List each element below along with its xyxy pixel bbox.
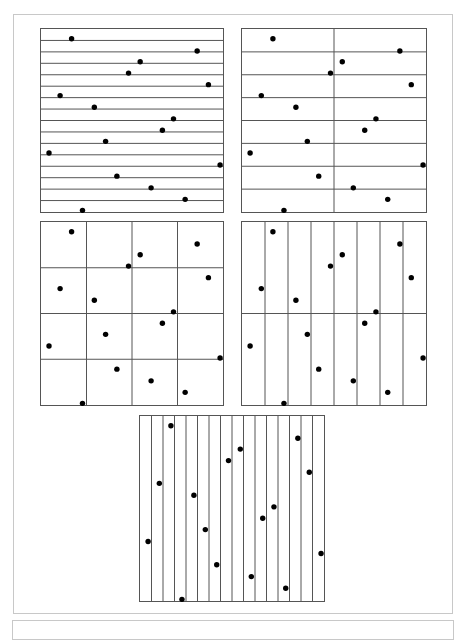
- data-point: [397, 48, 402, 53]
- panel-16x1: [40, 28, 224, 213]
- data-point: [148, 185, 153, 190]
- data-point: [362, 321, 367, 326]
- data-point: [420, 162, 425, 167]
- data-point: [328, 263, 333, 268]
- data-point: [351, 378, 356, 383]
- data-point: [80, 208, 85, 213]
- data-point: [171, 309, 176, 314]
- data-point: [385, 390, 390, 395]
- data-point: [226, 458, 231, 463]
- data-point: [191, 492, 196, 497]
- data-point: [305, 139, 310, 144]
- data-point: [46, 343, 51, 348]
- data-point: [249, 574, 254, 579]
- data-point: [103, 139, 108, 144]
- data-point: [295, 436, 300, 441]
- data-point: [318, 551, 323, 556]
- data-point: [80, 401, 85, 406]
- data-point: [305, 332, 310, 337]
- data-point: [194, 241, 199, 246]
- data-point: [307, 470, 312, 475]
- data-point: [160, 128, 165, 133]
- data-point: [238, 446, 243, 451]
- data-point: [373, 116, 378, 121]
- panel-8x2: [241, 28, 427, 213]
- data-point: [247, 343, 252, 348]
- data-point: [316, 173, 321, 178]
- data-point: [92, 105, 97, 110]
- data-point: [420, 355, 425, 360]
- data-point: [137, 59, 142, 64]
- data-point: [182, 197, 187, 202]
- data-point: [293, 298, 298, 303]
- grid-lines: [242, 222, 426, 405]
- data-point: [168, 423, 173, 428]
- data-point: [69, 229, 74, 234]
- grid-lines: [41, 29, 223, 212]
- data-point: [259, 93, 264, 98]
- data-point: [57, 93, 62, 98]
- data-point: [281, 401, 286, 406]
- data-point: [409, 275, 414, 280]
- data-point: [247, 150, 252, 155]
- data-point: [114, 366, 119, 371]
- data-point: [362, 128, 367, 133]
- data-point: [281, 208, 286, 213]
- panel-2x8: [241, 221, 427, 406]
- data-point: [46, 150, 51, 155]
- data-point: [217, 162, 222, 167]
- data-point: [260, 516, 265, 521]
- data-point: [259, 286, 264, 291]
- data-point: [270, 36, 275, 41]
- data-point: [328, 70, 333, 75]
- data-point: [160, 321, 165, 326]
- data-point: [351, 185, 356, 190]
- data-point: [283, 586, 288, 591]
- data-point: [145, 539, 150, 544]
- data-point: [194, 48, 199, 53]
- data-point: [203, 527, 208, 532]
- data-point: [148, 378, 153, 383]
- data-point: [57, 286, 62, 291]
- panel-1x16: [139, 415, 325, 602]
- data-point: [340, 59, 345, 64]
- data-point: [157, 481, 162, 486]
- data-point: [114, 173, 119, 178]
- data-point: [340, 252, 345, 257]
- data-point: [270, 229, 275, 234]
- grid-lines: [242, 29, 426, 212]
- grid-lines: [140, 416, 324, 601]
- data-point: [316, 366, 321, 371]
- data-point: [409, 82, 414, 87]
- data-point: [182, 390, 187, 395]
- data-point: [206, 275, 211, 280]
- data-point: [103, 332, 108, 337]
- data-point: [126, 263, 131, 268]
- grid-lines: [41, 222, 223, 405]
- data-point: [214, 562, 219, 567]
- data-point: [206, 82, 211, 87]
- data-point: [69, 36, 74, 41]
- data-point: [385, 197, 390, 202]
- data-point: [126, 70, 131, 75]
- data-point: [373, 309, 378, 314]
- next-page-frame: [12, 620, 454, 640]
- data-point: [171, 116, 176, 121]
- data-point: [271, 504, 276, 509]
- data-point: [137, 252, 142, 257]
- data-point: [293, 105, 298, 110]
- data-point: [217, 355, 222, 360]
- data-point: [179, 597, 184, 602]
- data-point: [397, 241, 402, 246]
- panel-4x4: [40, 221, 224, 406]
- data-point: [92, 298, 97, 303]
